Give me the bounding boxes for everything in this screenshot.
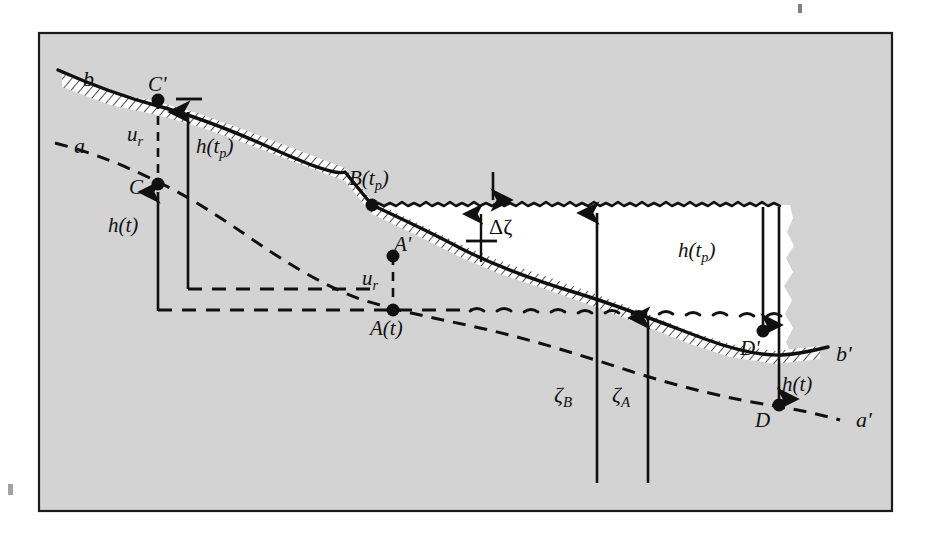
label-ur-left-main: u bbox=[127, 122, 138, 146]
label-zeta-B-main: ζ bbox=[554, 382, 563, 407]
label-ur-mid-sub: r bbox=[373, 277, 379, 293]
label-point-B-tp: B(tp) bbox=[349, 168, 389, 192]
label-zeta-A: ζA bbox=[612, 384, 630, 410]
label-h-t-left: h(t) bbox=[108, 215, 138, 236]
label-B-main: B(t bbox=[349, 166, 375, 190]
label-h-t-right: h(t) bbox=[782, 374, 812, 395]
label-ur-mid: ur bbox=[362, 268, 378, 292]
label-h-tp-right-main: h(t bbox=[678, 238, 701, 262]
label-point-A-t: A(t) bbox=[370, 318, 403, 339]
label-zeta-A-main: ζ bbox=[612, 382, 621, 407]
label-zeta-B: ζB bbox=[554, 384, 572, 410]
label-h-tp-left: h(tp) bbox=[196, 136, 233, 160]
label-zeta-B-sub: B bbox=[563, 394, 572, 410]
label-point-C-prime: C' bbox=[148, 74, 167, 95]
label-h-tp-right: h(tp) bbox=[678, 240, 715, 264]
label-zeta-A-sub: A bbox=[621, 394, 630, 410]
point-B-tp-marker bbox=[366, 199, 379, 212]
label-h-tp-left-close: ) bbox=[226, 134, 233, 158]
label-h-tp-left-main: h(t bbox=[196, 134, 219, 158]
label-point-C: C bbox=[129, 177, 143, 198]
label-h-tp-right-close: ) bbox=[708, 238, 715, 262]
label-B-sub: p bbox=[375, 177, 382, 193]
label-point-A-prime: A' bbox=[394, 234, 411, 255]
label-delta-zeta: Δζ bbox=[489, 216, 512, 238]
scour-diagram-svg bbox=[0, 0, 933, 541]
label-ur-left: ur bbox=[127, 124, 143, 148]
label-point-D: D bbox=[755, 410, 770, 431]
label-curve-b: b bbox=[83, 68, 94, 90]
point-C-marker bbox=[152, 178, 165, 191]
figure-stage: b b' a a' C' C B(tp) A' A(t) D' D ur ur … bbox=[0, 0, 933, 541]
label-ur-mid-main: u bbox=[362, 266, 373, 290]
print-artifact-top bbox=[798, 4, 802, 13]
print-artifact-left bbox=[8, 484, 13, 495]
label-curve-b-prime: b' bbox=[836, 343, 852, 365]
point-A-t-marker bbox=[387, 304, 400, 317]
label-curve-a-prime: a' bbox=[856, 409, 872, 431]
label-point-D-prime: D' bbox=[740, 338, 760, 359]
point-D-marker bbox=[773, 399, 786, 412]
label-B-close: ) bbox=[382, 166, 389, 190]
label-curve-a: a bbox=[74, 135, 85, 157]
label-ur-left-sub: r bbox=[138, 133, 144, 149]
